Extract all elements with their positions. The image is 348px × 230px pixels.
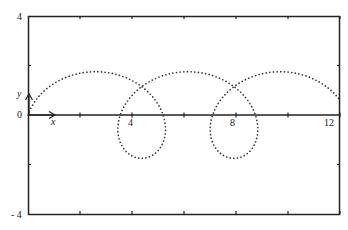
x-tick-label-8: 8 [230,118,235,128]
y-tick-label-minus-4: - 4 [11,210,22,220]
x-axis-label: x [51,117,55,127]
x-tick-label-4: 4 [128,118,133,128]
y-axis-label: y [17,89,21,99]
x-tick-label-12: 12 [324,118,334,128]
chart-plot-area [0,0,348,230]
y-tick-label-0: 0 [17,110,22,120]
y-tick-label-4: 4 [17,12,22,22]
